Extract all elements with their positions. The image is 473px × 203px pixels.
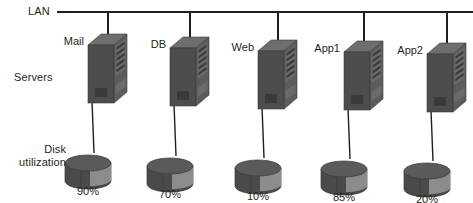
disk-icon-web[interactable] bbox=[235, 160, 281, 194]
server-front-bezel-web bbox=[265, 94, 277, 103]
disk-icon-app1[interactable] bbox=[321, 161, 367, 195]
disk-icon-mail[interactable] bbox=[65, 155, 111, 189]
disk-utilization-value-app2: 20% bbox=[407, 193, 447, 203]
disk-top-web bbox=[235, 160, 281, 176]
disk-utilization-label-line1: Disk bbox=[0, 143, 66, 156]
server-disk-link-web bbox=[262, 107, 264, 158]
server-front-bezel-mail bbox=[95, 88, 107, 97]
server-label-db: DB bbox=[108, 38, 166, 50]
disk-utilization-value-db: 70% bbox=[150, 188, 190, 200]
disk-top-db bbox=[147, 158, 193, 174]
server-disk-link-app1 bbox=[348, 108, 350, 159]
server-label-app1: App1 bbox=[282, 42, 340, 54]
network-disk-utilization-diagram: LAN Servers Disk utilization MailDBWebAp… bbox=[0, 0, 473, 203]
disk-icon-db[interactable] bbox=[147, 158, 193, 192]
disk-utilization-value-web: 10% bbox=[238, 190, 278, 202]
diagram-canvas bbox=[0, 0, 473, 203]
disk-top-app2 bbox=[404, 163, 450, 179]
server-label-app2: App2 bbox=[365, 44, 423, 56]
server-icon-app2[interactable] bbox=[427, 43, 466, 112]
server-label-web: Web bbox=[196, 41, 254, 53]
servers-row-label: Servers bbox=[14, 71, 53, 84]
server-front-bezel-app2 bbox=[434, 97, 446, 106]
disk-top-app1 bbox=[321, 161, 367, 177]
server-disk-link-app2 bbox=[431, 110, 433, 161]
disk-utilization-label-line2: utilization bbox=[0, 156, 66, 169]
disk-utilization-value-mail: 90% bbox=[68, 185, 108, 197]
server-label-mail: Mail bbox=[26, 35, 84, 47]
disk-utilization-value-app1: 85% bbox=[324, 191, 364, 203]
lan-label: LAN bbox=[28, 5, 50, 18]
server-front-bezel-db bbox=[177, 91, 189, 100]
disk-top-mail bbox=[65, 155, 111, 171]
server-disk-link-db bbox=[174, 104, 176, 156]
server-disk-link-mail bbox=[92, 101, 94, 153]
disk-icon-app2[interactable] bbox=[404, 163, 450, 197]
server-front-bezel-app1 bbox=[351, 95, 363, 104]
disk-utilization-row-label: Disk utilization bbox=[0, 143, 66, 169]
server-disk-link-group bbox=[92, 101, 433, 161]
